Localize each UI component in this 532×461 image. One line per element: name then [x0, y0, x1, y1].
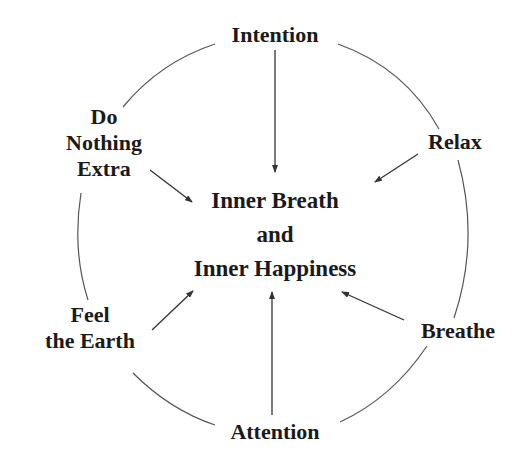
arc-breathe-to-attention	[340, 346, 427, 422]
center-line-1: Inner Breath	[180, 184, 370, 218]
node-relax-label: Relax	[410, 129, 500, 155]
arrow-breathe	[342, 292, 404, 320]
node-feel-the-earth: Feel the Earth	[30, 302, 150, 354]
node-intention: Intention	[205, 22, 345, 48]
node-relax: Relax	[410, 129, 500, 155]
center-line-3: Inner Happiness	[180, 252, 370, 286]
node-do-nothing-extra: Do Nothing Extra	[44, 104, 164, 182]
node-feel-the-earth-line-2: the Earth	[30, 328, 150, 354]
center-line-2: and	[180, 218, 370, 252]
node-feel-the-earth-line-1: Feel	[30, 302, 150, 328]
arc-feel-the-earth-to-attention	[133, 373, 215, 425]
node-do-nothing-extra-line-1: Do	[44, 104, 164, 130]
node-do-nothing-extra-line-2: Nothing	[44, 130, 164, 156]
arc-intention-to-relax	[338, 44, 439, 129]
arc-do-nothing-extra-to-feel-the-earth	[78, 193, 88, 300]
node-attention-label: Attention	[205, 419, 345, 445]
node-do-nothing-extra-line-3: Extra	[44, 156, 164, 182]
node-attention: Attention	[205, 419, 345, 445]
node-breathe-label: Breathe	[403, 318, 513, 344]
node-breathe: Breathe	[403, 318, 513, 344]
arrow-feel-the-earth	[152, 291, 193, 330]
arc-relax-to-breathe	[454, 160, 468, 318]
arrow-relax	[375, 154, 418, 182]
arc-intention-to-do-nothing-extra	[123, 44, 215, 107]
node-intention-label: Intention	[205, 22, 345, 48]
center-node: Inner Breath and Inner Happiness	[180, 184, 370, 286]
